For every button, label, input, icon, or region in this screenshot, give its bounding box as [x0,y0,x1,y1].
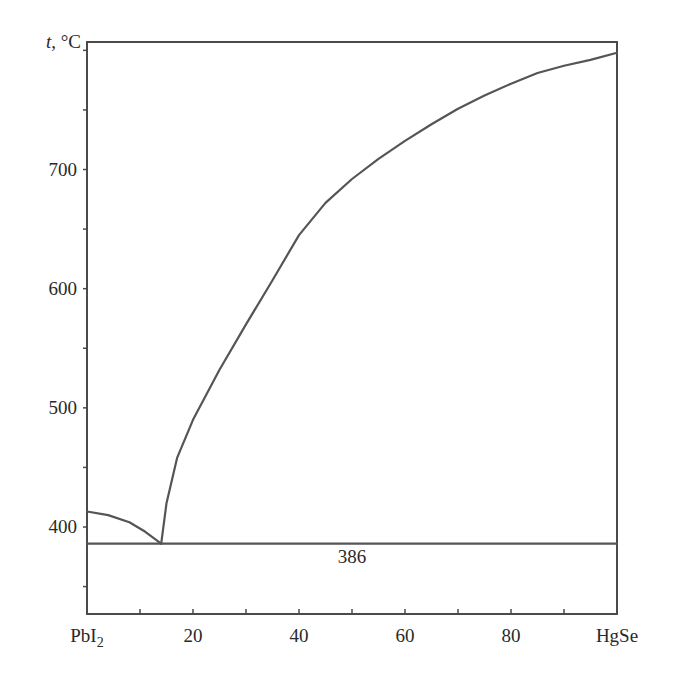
x-label-right: HgSe [596,625,638,646]
y-axis-label: t, °C [46,31,81,52]
x-tick-label: 60 [396,625,415,646]
liquidus-HgSe [161,53,617,544]
eutectic-temperature-label: 386 [338,546,367,567]
y-tick-label: 500 [49,397,78,418]
y-tick-label: 700 [49,159,78,180]
plot-frame [87,42,617,614]
x-label-left: PbI2 [70,625,103,650]
y-tick-label: 400 [49,516,78,537]
x-tick-label: 20 [184,625,203,646]
phase-diagram: 40050060070020406080PbI2HgSet, °C386 [0,0,674,678]
x-tick-label: 40 [290,625,309,646]
liquidus-PbI2 [87,512,161,544]
y-tick-label: 600 [49,278,78,299]
x-tick-label: 80 [502,625,521,646]
